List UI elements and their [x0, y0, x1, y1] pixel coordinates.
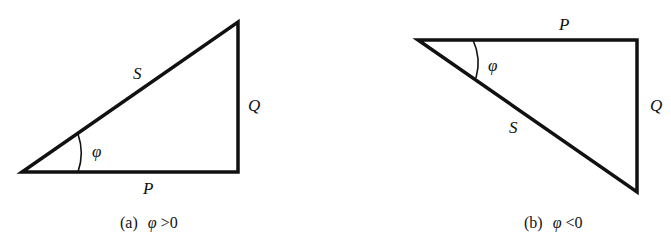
power-triangles-figure: S Q P φ (a) φ >0 P φ Q S (b) φ <0 [0, 0, 671, 252]
caption-b-relation: <0 [566, 214, 583, 231]
triangle-b-shape [418, 40, 637, 192]
label-phi-a: φ [92, 142, 101, 161]
label-s-b: S [509, 118, 518, 137]
label-p-a: P [142, 179, 153, 198]
caption-b-prefix: (b) [524, 214, 543, 232]
caption-b-symbol: φ [553, 214, 562, 232]
power-triangle-b: P φ Q S (b) φ <0 [418, 15, 662, 232]
angle-arc-b [473, 40, 478, 78]
caption-a-symbol: φ [148, 214, 157, 232]
caption-a-relation: >0 [161, 214, 178, 231]
label-s-a: S [133, 64, 142, 83]
label-q-b: Q [650, 96, 662, 115]
triangle-a-shape [22, 22, 238, 172]
power-triangle-a: S Q P φ (a) φ >0 [22, 22, 260, 232]
caption-b: (b) φ <0 [524, 214, 583, 232]
label-phi-b: φ [488, 56, 497, 75]
label-q-a: Q [248, 96, 260, 115]
caption-a-prefix: (a) [120, 214, 138, 232]
angle-arc-a [78, 134, 81, 172]
label-p-b: P [558, 15, 569, 34]
caption-a: (a) φ >0 [120, 214, 178, 232]
